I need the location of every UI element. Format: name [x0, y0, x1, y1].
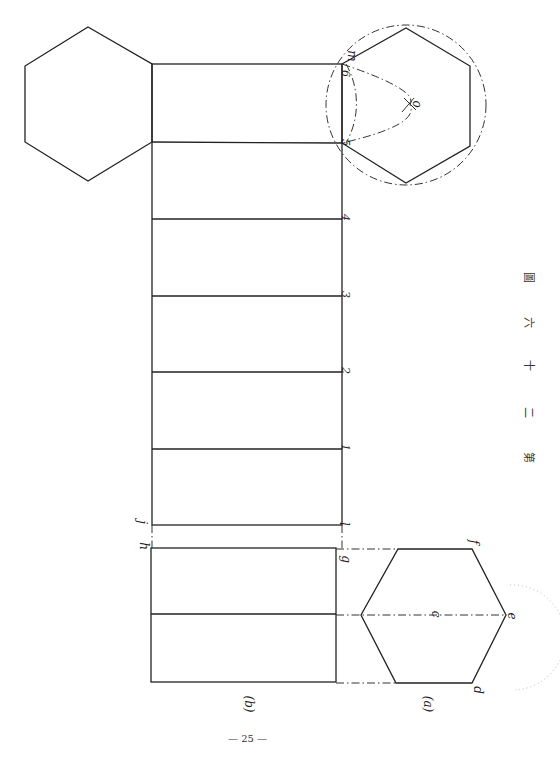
vertex-label-d: d [472, 686, 484, 694]
center-label-c: c [430, 611, 442, 618]
caption-char-2: 二 [523, 407, 534, 418]
development-strip [152, 64, 342, 525]
vertex-label-f: f [468, 540, 480, 544]
caption-char-1: 第 [523, 452, 534, 463]
caption-char-4: 六 [523, 317, 534, 328]
page-number: — 25 — [228, 733, 267, 744]
edge-label-4: 4 [340, 214, 351, 221]
top-cap-hexagon [25, 27, 152, 181]
bottom-cap-hexagon [342, 28, 470, 183]
hexagonal-prism-development-drawing [0, 0, 560, 762]
elevation-view-label: (b) [243, 695, 255, 712]
construction-circle [326, 25, 486, 185]
vertex-label-e: e [506, 612, 518, 619]
edge-label-5: 5 [340, 139, 351, 146]
edge-label-2: 2 [340, 367, 351, 374]
center-label-o: o [411, 100, 423, 107]
caption-char-3: 十 [523, 360, 534, 371]
plan-view-label: (a) [422, 696, 434, 713]
edge-label-1: 1 [340, 444, 351, 451]
vertex-label-g: g [340, 555, 352, 563]
vertex-label-l: l [338, 522, 350, 526]
edge-label-6: 6 [340, 70, 351, 77]
caption-char-5: 圖 [523, 272, 534, 283]
vertex-label-h: h [138, 542, 150, 550]
vertex-label-j: j [136, 520, 148, 524]
vertex-label-m: m [346, 50, 358, 61]
edge-label-3: 3 [340, 291, 351, 298]
elevation-view [151, 548, 336, 682]
